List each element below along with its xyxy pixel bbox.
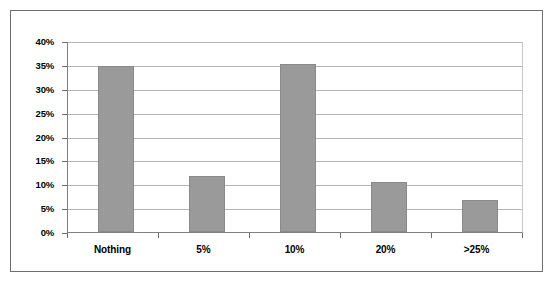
plot-area bbox=[67, 42, 523, 233]
x-axis-label-nothing: Nothing bbox=[67, 244, 158, 256]
y-axis-label-40: 40% bbox=[14, 37, 54, 47]
x-axis-label-gt25: >25% bbox=[431, 244, 522, 256]
y-axis-label-30: 30% bbox=[14, 85, 54, 95]
bar-gt25 bbox=[462, 200, 498, 232]
x-axis-tick-4 bbox=[431, 233, 432, 238]
x-axis-tick-1 bbox=[158, 233, 159, 238]
x-axis-tick-2 bbox=[249, 233, 250, 238]
y-axis-label-20: 20% bbox=[14, 133, 54, 143]
x-axis-label-5: 5% bbox=[158, 244, 249, 256]
x-axis-tick-5 bbox=[522, 233, 523, 238]
bar-20 bbox=[371, 182, 407, 232]
bar-5 bbox=[189, 176, 225, 232]
bar-10 bbox=[280, 64, 316, 232]
y-axis-label-35: 35% bbox=[14, 61, 54, 71]
y-axis-label-10: 10% bbox=[14, 180, 54, 190]
bar-nothing bbox=[98, 66, 134, 232]
x-axis-tick-0 bbox=[67, 233, 68, 238]
x-axis-label-10: 10% bbox=[249, 244, 340, 256]
y-axis-label-25: 25% bbox=[14, 109, 54, 119]
gridline-40 bbox=[68, 42, 522, 43]
x-axis-tick-3 bbox=[340, 233, 341, 238]
y-axis-label-5: 5% bbox=[14, 204, 54, 214]
x-axis-label-20: 20% bbox=[340, 244, 431, 256]
y-axis-label-0: 0% bbox=[14, 228, 54, 238]
bar-chart-figure: 0% 5% 10% 15% 20% 25% 30% 35% 40% bbox=[0, 0, 553, 285]
chart-outer-frame: 0% 5% 10% 15% 20% 25% 30% 35% 40% bbox=[10, 10, 543, 272]
y-axis-label-15: 15% bbox=[14, 156, 54, 166]
